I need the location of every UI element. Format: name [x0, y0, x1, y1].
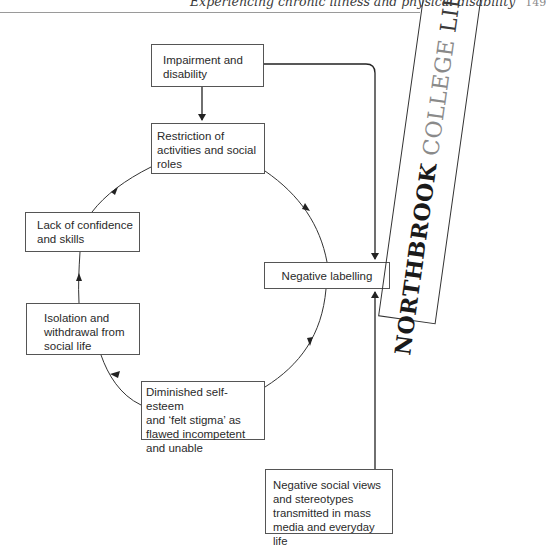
node-impairment: Impairment and disability [151, 44, 264, 87]
node-isolation: Isolation and withdrawal from social lif… [26, 303, 140, 355]
node-text-line: flawed incompetent [146, 427, 264, 441]
arc-diminished-to-isolation [101, 355, 141, 405]
stamp-word-college: COLLEGE [418, 38, 459, 158]
arrowhead-4 [76, 273, 82, 281]
node-text-line: and stereotypes [273, 492, 392, 506]
node-text-line: media and everyday life [273, 520, 392, 548]
node-diminished-self-esteem: Diminished self-esteem and ‘felt stigma’… [141, 381, 265, 440]
node-text-line: and skills [37, 232, 139, 246]
arrowhead-2 [307, 337, 313, 346]
node-text-line: and ‘felt stigma’ as [146, 413, 264, 427]
stamp-word-library: LIBRARY [435, 0, 474, 34]
node-text-line: roles [157, 157, 264, 171]
node-negative-social-views: Negative social views and stereotypes tr… [265, 469, 393, 534]
arc-labelling-to-diminished [265, 289, 326, 387]
page-number: 149 [525, 0, 546, 9]
node-text-line: disability [163, 67, 263, 81]
node-text-line: Isolation and [44, 311, 139, 325]
node-text-line: transmitted in mass [273, 506, 392, 520]
node-text-line: Impairment and [163, 53, 263, 67]
node-negative-labelling: Negative labelling [264, 262, 390, 289]
node-text-line: Lack of confidence [37, 218, 139, 232]
node-text-line: and unable [146, 441, 264, 455]
arc-restriction-to-labelling [265, 171, 327, 262]
node-text-line: withdrawal from [44, 325, 139, 339]
line-impairment-to-labelling [264, 64, 375, 259]
node-text-line: activities and social [157, 143, 264, 157]
node-lack-of-confidence: Lack of confidence and skills [25, 212, 140, 252]
arc-lack-to-restriction [92, 167, 151, 212]
node-text-line: social life [44, 339, 139, 353]
arrowhead-1 [302, 203, 310, 211]
node-restriction: Restriction of activities and social rol… [151, 123, 265, 174]
node-text-line: Negative social views [273, 478, 392, 492]
node-text-line: Restriction of [157, 129, 264, 143]
node-text-line: Negative labelling [265, 269, 389, 283]
node-text-line: Diminished self-esteem [146, 385, 264, 413]
